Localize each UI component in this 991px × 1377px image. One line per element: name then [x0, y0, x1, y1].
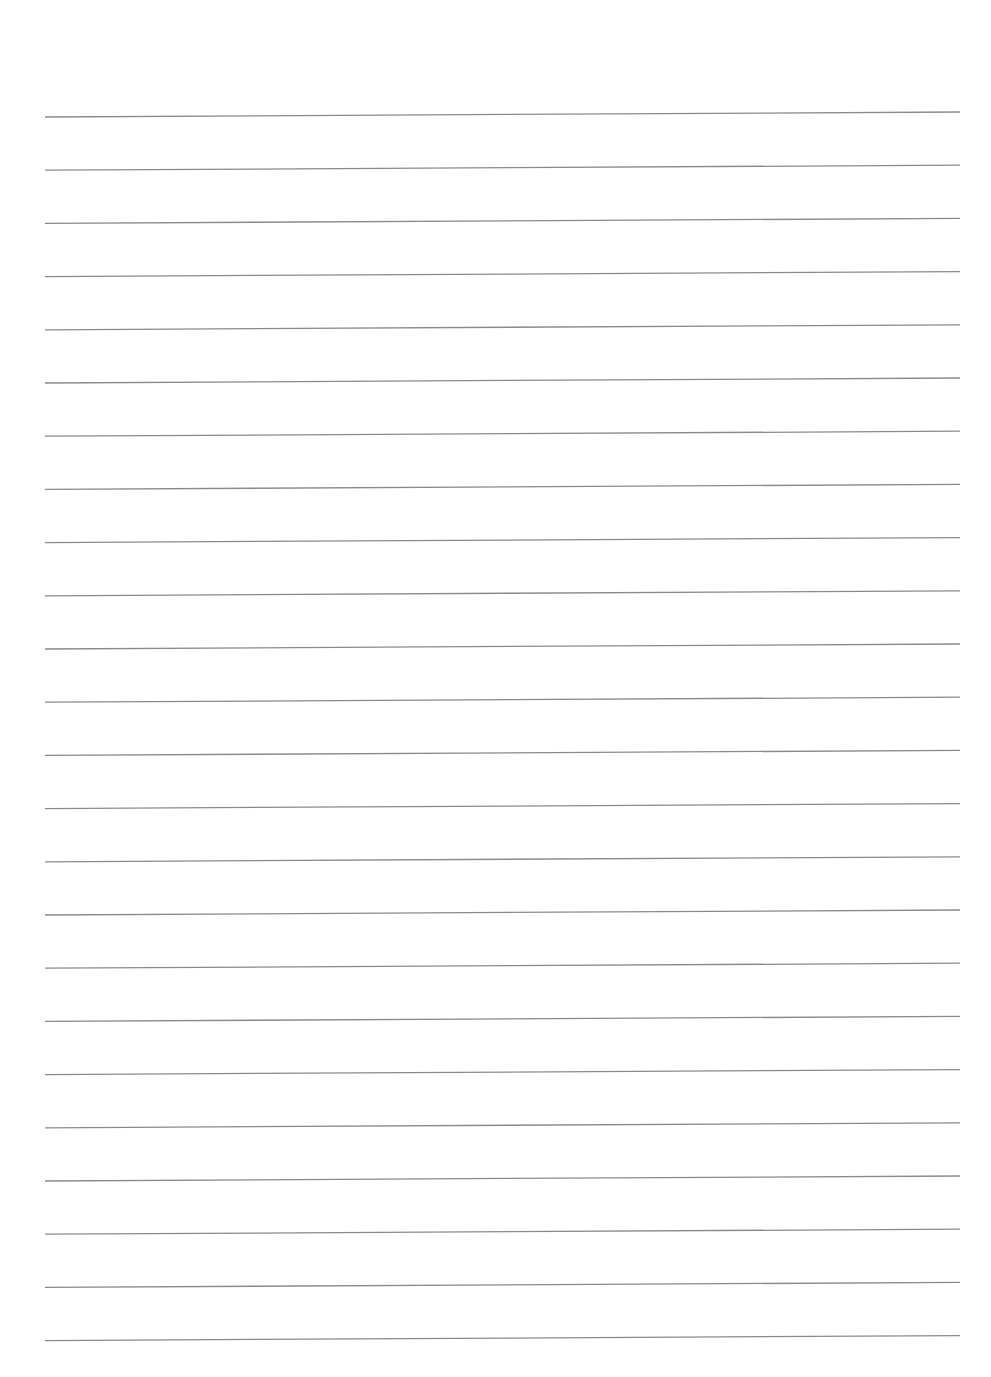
- ruled-line: [45, 165, 960, 170]
- ruled-line: [45, 325, 960, 330]
- ruled-line: [45, 963, 960, 968]
- ruled-line: [45, 1282, 960, 1287]
- lined-paper-page: [0, 0, 991, 1377]
- ruled-line: [45, 1123, 960, 1128]
- ruled-line: [45, 1229, 960, 1234]
- ruled-lines: [0, 0, 991, 1377]
- ruled-line: [45, 591, 960, 596]
- ruled-line: [45, 538, 960, 543]
- ruled-line: [45, 378, 960, 383]
- ruled-line: [45, 1336, 960, 1341]
- ruled-line: [45, 644, 960, 649]
- ruled-line: [45, 484, 960, 489]
- ruled-line: [45, 218, 960, 223]
- ruled-line: [45, 1176, 960, 1181]
- ruled-line: [45, 804, 960, 809]
- ruled-line: [45, 1016, 960, 1021]
- ruled-line: [45, 857, 960, 862]
- ruled-line: [45, 697, 960, 702]
- ruled-line: [45, 431, 960, 436]
- ruled-line: [45, 910, 960, 915]
- ruled-line: [45, 112, 960, 117]
- ruled-line: [45, 1070, 960, 1075]
- ruled-line: [45, 750, 960, 755]
- ruled-line: [45, 272, 960, 277]
